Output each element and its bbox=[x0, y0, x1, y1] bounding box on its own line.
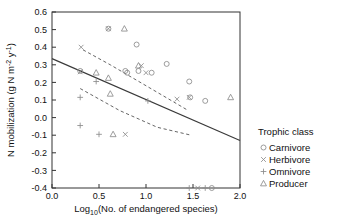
y-tick-label: 0.3 bbox=[34, 60, 47, 70]
y-tick-label: -0.2 bbox=[31, 148, 47, 158]
y-tick-label: 0.6 bbox=[34, 7, 47, 17]
legend-item-label: Herbivore bbox=[269, 154, 310, 165]
data-point bbox=[188, 95, 193, 100]
data-point bbox=[79, 45, 84, 50]
y-tick-label: 0.2 bbox=[34, 78, 47, 88]
x-axis-title: Log10(No. of endangered species) bbox=[74, 203, 218, 216]
data-point bbox=[203, 98, 208, 103]
axis-tick-labels: 0.00.51.01.52.00.60.50.40.30.20.10.0-0.1… bbox=[31, 7, 246, 201]
data-point bbox=[123, 132, 128, 137]
data-point bbox=[186, 185, 192, 191]
data-point bbox=[77, 94, 83, 100]
data-point bbox=[134, 42, 139, 47]
data-point bbox=[96, 131, 102, 137]
y-tick-label: 0.4 bbox=[34, 42, 47, 52]
x-tick-label: 1.0 bbox=[140, 191, 153, 201]
legend-item-carnivore[interactable]: Carnivore bbox=[258, 141, 338, 153]
series-herbivore bbox=[78, 26, 200, 190]
y-tick-label: -0.3 bbox=[31, 166, 47, 176]
data-point bbox=[105, 75, 111, 80]
data-point bbox=[77, 123, 83, 129]
legend-item-label: Producer bbox=[269, 178, 308, 189]
legend-marker bbox=[261, 157, 266, 162]
data-point bbox=[110, 131, 116, 136]
data-point bbox=[149, 70, 154, 75]
legend-marker bbox=[261, 145, 266, 150]
legend-item-producer[interactable]: Producer bbox=[258, 177, 338, 189]
data-point bbox=[107, 91, 113, 96]
legend-marker bbox=[261, 180, 267, 185]
plus-icon bbox=[258, 166, 269, 177]
legend-item-herbivore[interactable]: Herbivore bbox=[258, 153, 338, 165]
figure: 0.00.51.01.52.00.60.50.40.30.20.10.0-0.1… bbox=[0, 0, 338, 224]
data-point bbox=[175, 97, 180, 102]
legend-items: CarnivoreHerbivoreOmnivoreProducer bbox=[258, 141, 338, 189]
confidence-bands bbox=[80, 50, 191, 135]
data-point bbox=[202, 185, 208, 191]
y-tick-label: -0.4 bbox=[31, 183, 47, 193]
data-point bbox=[145, 98, 151, 104]
legend-item-label: Omnivore bbox=[269, 166, 310, 177]
legend-item-label: Carnivore bbox=[269, 142, 310, 153]
y-tick-label: 0.0 bbox=[34, 113, 47, 123]
y-tick-label: 0.5 bbox=[34, 25, 47, 35]
data-point bbox=[228, 94, 234, 99]
data-point bbox=[136, 68, 141, 73]
legend-item-omnivore[interactable]: Omnivore bbox=[258, 165, 338, 177]
circle-open-icon bbox=[258, 142, 269, 153]
data-point bbox=[93, 70, 99, 75]
series-producer bbox=[93, 26, 233, 137]
x-tick-label: 1.5 bbox=[187, 191, 200, 201]
series-carnivore bbox=[78, 26, 215, 190]
confidence-band-line bbox=[83, 50, 188, 111]
y-tick-label: 0.1 bbox=[34, 95, 47, 105]
legend-title: Trophic class bbox=[258, 126, 338, 137]
data-point bbox=[187, 79, 192, 84]
scatter-plot: 0.00.51.01.52.00.60.50.40.30.20.10.0-0.1… bbox=[0, 0, 338, 224]
data-point bbox=[164, 61, 169, 66]
x-tick-label: 2.0 bbox=[234, 191, 247, 201]
data-point bbox=[93, 79, 99, 85]
legend: Trophic class CarnivoreHerbivoreOmnivore… bbox=[258, 126, 338, 189]
x-tick-label: 0.0 bbox=[46, 191, 59, 201]
data-point bbox=[106, 26, 111, 31]
data-points bbox=[77, 26, 233, 191]
legend-marker bbox=[261, 168, 267, 174]
y-tick-label: -0.1 bbox=[31, 130, 47, 140]
triangle-open-icon bbox=[258, 178, 269, 189]
x-icon bbox=[258, 154, 269, 165]
data-point bbox=[144, 70, 149, 75]
data-point bbox=[121, 26, 127, 31]
x-tick-label: 0.5 bbox=[93, 191, 106, 201]
y-axis-title: N mobilization (g N m-2 y-1) bbox=[5, 43, 16, 157]
